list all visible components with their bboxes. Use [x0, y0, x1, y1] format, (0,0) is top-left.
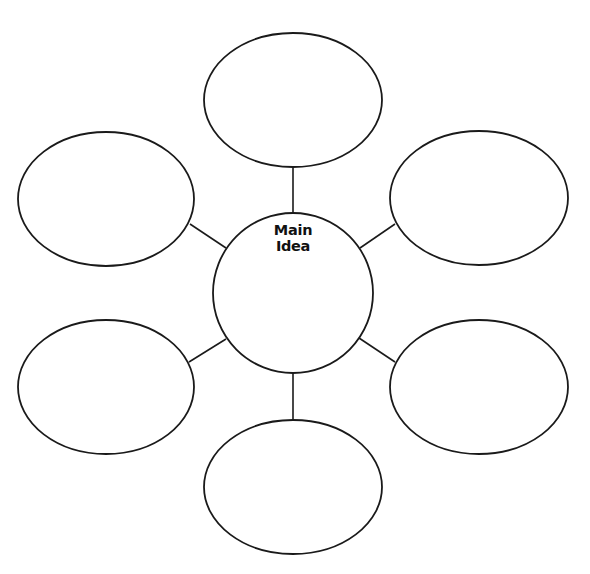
- connector-lower-left: [189, 339, 226, 362]
- connector-upper-right: [360, 224, 395, 248]
- bubble-bottom[interactable]: [204, 420, 382, 554]
- main-idea-label-line1: Main: [243, 222, 343, 238]
- bubble-upper-left[interactable]: [18, 132, 194, 266]
- main-idea-label-line2: Idea: [243, 238, 343, 254]
- bubble-map-diagram: [0, 0, 590, 574]
- bubble-upper-right[interactable]: [390, 131, 568, 265]
- bubble-lower-left[interactable]: [18, 320, 194, 454]
- bubble-lower-right[interactable]: [390, 320, 568, 454]
- main-idea-label: Main Idea: [243, 222, 343, 254]
- connector-lower-right: [359, 338, 395, 362]
- bubble-top[interactable]: [204, 33, 382, 167]
- connector-upper-left: [190, 224, 226, 248]
